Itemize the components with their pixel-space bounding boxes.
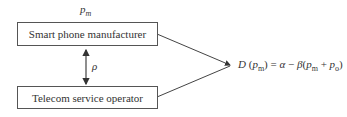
manufacturer-label: Smart phone manufacturer xyxy=(29,28,146,40)
manufacturer-box: Smart phone manufacturer xyxy=(17,22,158,46)
demand-formula: D (pm) = α − β(pm + po) xyxy=(238,58,343,73)
rho-label: ρ xyxy=(92,60,97,72)
price-label: pm xyxy=(80,3,91,18)
operator-label: Telecom service operator xyxy=(32,92,143,104)
operator-box: Telecom service operator xyxy=(17,86,158,109)
